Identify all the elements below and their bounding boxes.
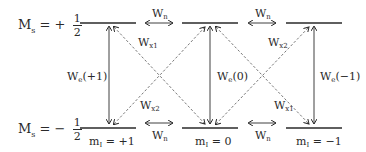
wx2-top-label: Wx2 xyxy=(268,37,288,50)
ms-bottom-label: Ms = − 12 xyxy=(18,117,82,142)
ms-top-label: Ms = + 12 xyxy=(18,13,82,38)
we-minus1-label: We(−1) xyxy=(320,71,360,84)
we-0-label: We(0) xyxy=(217,71,248,84)
wn-arrows xyxy=(146,23,276,123)
wn-bottom-2-label: Wn xyxy=(255,130,271,143)
ml-0-label: mI = 0 xyxy=(195,136,231,149)
wx1-top-label: Wx1 xyxy=(138,37,158,50)
ml-plus1-label: mI = +1 xyxy=(89,136,135,149)
wn-bottom-1-label: Wn xyxy=(152,130,168,143)
wn-top-2-label: Wn xyxy=(255,8,271,21)
wx2-bottom-label: Wx2 xyxy=(140,100,160,113)
wn-top-1-label: Wn xyxy=(152,8,168,21)
ml-minus1-label: mI = −1 xyxy=(296,136,342,149)
wx1-bottom-label: Wx1 xyxy=(274,100,294,113)
we-plus1-label: We(+1) xyxy=(67,71,107,84)
